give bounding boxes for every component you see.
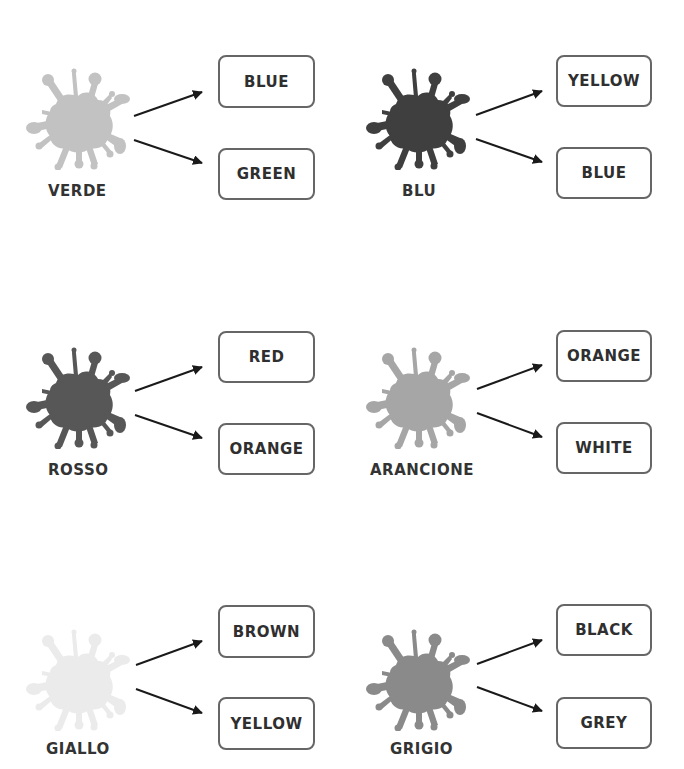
exercise-item-giallo: GIALLO BROWN YELLOW	[0, 627, 342, 769]
paint-splash-icon	[366, 66, 474, 170]
paint-splash-icon	[26, 627, 134, 731]
color-word-label: VERDE	[48, 182, 107, 200]
color-word-label: ARANCIONE	[370, 461, 474, 479]
answer-option-box[interactable]: YELLOW	[556, 55, 652, 107]
exercise-item-blu: BLU YELLOW BLUE	[340, 66, 682, 296]
answer-option-box[interactable]: WHITE	[556, 422, 652, 474]
answer-option-box[interactable]: ORANGE	[556, 330, 652, 382]
answer-option-box[interactable]: BLACK	[556, 604, 652, 656]
color-word-label: GRIGIO	[390, 740, 453, 758]
exercise-item-arancione: ARANCIONE ORANGE WHITE	[340, 345, 682, 575]
exercise-item-rosso: ROSSO RED ORANGE	[0, 345, 342, 575]
paint-splash-icon	[26, 66, 134, 170]
answer-option-box[interactable]: YELLOW	[218, 697, 315, 750]
answer-option-box[interactable]: RED	[218, 331, 315, 383]
answer-option-box[interactable]: ORANGE	[218, 423, 315, 475]
exercise-item-verde: VERDE BLUE GREEN	[0, 66, 342, 296]
paint-splash-icon	[366, 627, 474, 731]
answer-option-box[interactable]: BLUE	[556, 147, 652, 199]
answer-option-box[interactable]: BLUE	[218, 55, 315, 108]
color-word-label: ROSSO	[48, 461, 109, 479]
paint-splash-icon	[366, 345, 474, 449]
color-word-label: BLU	[402, 182, 436, 200]
answer-option-box[interactable]: GREY	[556, 697, 652, 749]
exercise-item-grigio: GRIGIO BLACK GREY	[340, 627, 682, 769]
color-word-label: GIALLO	[46, 740, 110, 758]
paint-splash-icon	[26, 345, 134, 449]
answer-option-box[interactable]: BROWN	[218, 605, 315, 658]
answer-option-box[interactable]: GREEN	[218, 148, 315, 200]
